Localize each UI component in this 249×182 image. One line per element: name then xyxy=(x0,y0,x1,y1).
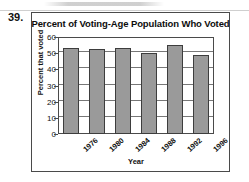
x-tick-label-1980: 1980 xyxy=(107,136,125,154)
bar-1992 xyxy=(167,45,183,134)
bar-1996 xyxy=(193,55,209,134)
y-tick-label-30: 30 xyxy=(34,81,56,90)
bar-1980 xyxy=(89,49,105,134)
bar-1988 xyxy=(141,53,157,134)
chart-title: Percent of Voting-Age Population Who Vot… xyxy=(31,18,230,29)
y-axis-tick-labels: 0102030405060 xyxy=(33,37,56,134)
bar-1976 xyxy=(63,48,79,134)
problem-number: 39. xyxy=(8,11,23,23)
y-tick-label-50: 50 xyxy=(34,49,56,58)
x-axis-title: Year xyxy=(58,157,214,166)
bar-series xyxy=(58,37,214,134)
x-tick-label-1984: 1984 xyxy=(133,136,151,154)
scan-artifact-top xyxy=(44,2,164,6)
y-tick-label-60: 60 xyxy=(34,33,56,42)
y-tick-mark-0 xyxy=(54,134,58,135)
x-tick-label-1992: 1992 xyxy=(185,136,203,154)
y-tick-label-20: 20 xyxy=(34,97,56,106)
scan-artifact-rule xyxy=(0,10,249,11)
bar-1984 xyxy=(115,48,131,134)
y-tick-label-0: 0 xyxy=(34,130,56,139)
x-tick-label-1976: 1976 xyxy=(81,136,99,154)
x-tick-label-1988: 1988 xyxy=(159,136,177,154)
y-tick-label-10: 10 xyxy=(34,113,56,122)
y-tick-label-40: 40 xyxy=(34,65,56,74)
